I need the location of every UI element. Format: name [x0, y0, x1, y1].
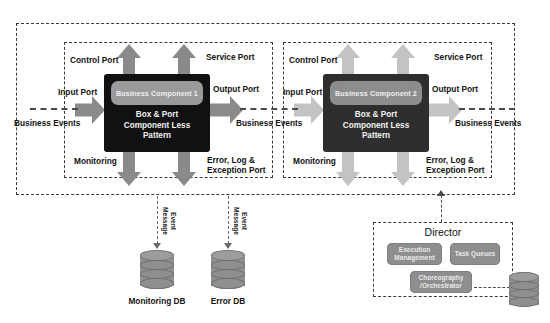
component-2-monitoring-arrow — [336, 152, 360, 186]
business-events-middle-line — [240, 108, 298, 110]
diagram-canvas: Control Port Service Port Input Port Out… — [0, 0, 550, 323]
component-1-output-port-label: Output Port — [213, 84, 259, 94]
component-2-body-line-3: Pattern — [323, 131, 429, 142]
component-1-control-port-arrow — [117, 44, 141, 78]
director-db-link-line — [474, 287, 510, 288]
error-db-icon — [211, 250, 245, 290]
component-1-body-line-1: Box & Port — [104, 110, 210, 121]
director-module-task-queues[interactable]: Task Queues — [450, 243, 500, 265]
director-db-icon — [509, 272, 539, 309]
component-1-error-port-label-line2: Exception Port — [207, 165, 266, 175]
component-2-header-label: Business Component 2 — [335, 89, 417, 98]
component-2-body-line-2: Component Less — [323, 121, 429, 132]
director-uplink-line — [441, 195, 442, 222]
business-events-outbound-label: Business Events — [455, 118, 521, 128]
monitoring-event-channel-line — [157, 196, 158, 244]
director-title: Director — [373, 226, 513, 238]
error-event-channel-line — [228, 196, 229, 244]
error-db-label: Error DB — [193, 296, 263, 306]
execution-management-line1: Execution — [399, 246, 431, 254]
choreography-orchestrator-line1: Choreography — [418, 274, 463, 282]
monitoring-channel-arrowhead — [153, 243, 161, 249]
director-module-execution-management[interactable]: Execution Management — [387, 243, 442, 265]
monitoring-db-icon — [140, 250, 174, 290]
component-2-error-port-label-line1: Error, Log & — [426, 155, 474, 165]
component-1-body-line-2: Component Less — [104, 121, 210, 132]
error-channel-arrowhead — [224, 243, 232, 249]
component-1-header-label: Business Component 1 — [116, 89, 198, 98]
component-1-error-port-label-line1: Error, Log & — [207, 155, 255, 165]
component-1-monitoring-port-label: Monitoring — [74, 156, 117, 166]
monitoring-event-message-label: Event Message — [161, 201, 177, 241]
component-1-service-port-arrow — [172, 44, 196, 78]
error-event-message-label: Event Message — [232, 201, 248, 241]
business-events-inbound-label: Business Events — [14, 118, 80, 128]
component-1-header-pill: Business Component 1 — [111, 81, 203, 105]
choreography-orchestrator-line2: /Orchestrator — [420, 282, 462, 290]
component-1-body-line-3: Pattern — [104, 131, 210, 142]
monitoring-db-label: Monitoring DB — [117, 296, 197, 306]
component-2-service-port-arrow — [391, 44, 415, 78]
component-1-service-port-label: Service Port — [206, 52, 254, 62]
component-2-body-line-1: Box & Port — [323, 110, 429, 121]
component-2-control-port-label: Control Port — [289, 55, 337, 65]
component-1-control-port-label: Control Port — [70, 55, 118, 65]
component-2-output-port-label: Output Port — [432, 84, 478, 94]
component-2-header-pill: Business Component 2 — [330, 81, 422, 105]
component-2-error-arrow — [391, 152, 415, 186]
component-1-error-arrow — [172, 152, 196, 186]
component-2-body: Business Component 2 Box & Port Componen… — [323, 74, 429, 152]
business-events-middle-label: Business Events — [236, 118, 302, 128]
component-2-control-port-arrow — [336, 44, 360, 78]
execution-management-line2: Management — [394, 254, 434, 262]
component-2-service-port-label: Service Port — [434, 52, 482, 62]
business-events-outbound-line — [459, 108, 515, 110]
director-uplink-arrowhead — [437, 190, 445, 196]
component-1-body: Business Component 1 Box & Port Componen… — [104, 74, 210, 152]
component-2-monitoring-port-label: Monitoring — [293, 156, 336, 166]
business-events-inbound-line — [30, 108, 78, 110]
director-module-choreography-orchestrator[interactable]: Choreography /Orchestrator — [410, 271, 472, 293]
component-1-monitoring-arrow — [117, 152, 141, 186]
component-2-error-port-label-line2: Exception Port — [426, 165, 485, 175]
task-queues-line1: Task Queues — [455, 250, 496, 258]
